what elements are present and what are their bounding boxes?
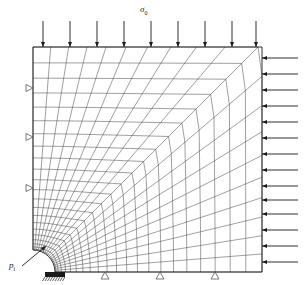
mesh-spoke xyxy=(36,47,68,250)
roller-triangle-up-icon xyxy=(156,272,164,279)
right-load-arrow xyxy=(262,260,298,264)
right-load-arrow xyxy=(262,120,298,124)
right-load-arrow xyxy=(262,72,298,76)
fem-mesh-figure: σ0 pi xyxy=(0,0,306,285)
right-load-arrow xyxy=(262,104,298,108)
mesh-spoke xyxy=(53,155,262,262)
mesh-ring xyxy=(33,134,174,272)
top-load-arrow xyxy=(176,21,180,47)
sigma-subscript: 0 xyxy=(144,10,147,16)
mesh-ring xyxy=(33,180,127,272)
mesh-spoke xyxy=(54,217,262,267)
p-subscript: i xyxy=(14,266,16,272)
roller-triangle-left-icon xyxy=(26,85,33,92)
mesh-spoke xyxy=(40,47,106,251)
right-load-arrow xyxy=(262,212,298,216)
right-load-arrow xyxy=(262,136,298,140)
mesh-ring xyxy=(33,47,262,272)
mesh-ring xyxy=(33,63,246,272)
right-load-arrow xyxy=(262,244,298,248)
mesh-spoke xyxy=(44,47,170,253)
mesh-canvas xyxy=(0,0,306,285)
mesh-ring xyxy=(33,190,117,272)
top-load-arrow xyxy=(254,21,258,47)
right-load-arrow xyxy=(262,198,298,202)
mesh-ring xyxy=(33,208,98,272)
right-load-arrow xyxy=(262,152,298,156)
mesh-spoke xyxy=(35,47,51,250)
mesh-ring xyxy=(33,215,90,272)
mesh-ring xyxy=(33,121,187,272)
top-load-arrow xyxy=(122,21,126,47)
roller-triangle-left-icon xyxy=(26,134,33,141)
load-arrows xyxy=(22,21,298,266)
top-load-arrow xyxy=(203,21,207,47)
right-load-arrow xyxy=(262,168,298,172)
fixed-support-icon xyxy=(43,272,66,281)
plate-outline xyxy=(33,47,262,272)
far-field-stress-label: σ0 xyxy=(140,4,147,16)
mesh-spoke xyxy=(55,254,262,270)
mesh-lines xyxy=(33,47,262,272)
top-load-arrow xyxy=(230,21,234,47)
mesh-ring xyxy=(33,107,201,272)
mesh-spoke xyxy=(55,236,262,269)
roller-triangle-up-icon xyxy=(101,272,109,279)
domain-border xyxy=(33,47,262,272)
top-load-arrow xyxy=(95,21,99,47)
right-load-arrow xyxy=(262,228,298,232)
internal-pressure-label: pi xyxy=(9,260,15,272)
right-load-arrow xyxy=(262,56,298,60)
roller-triangle-left-icon xyxy=(26,185,33,192)
right-load-arrow xyxy=(262,184,298,188)
right-load-arrow xyxy=(262,88,298,92)
top-load-arrow xyxy=(149,21,153,47)
mesh-spoke xyxy=(54,198,262,266)
top-load-arrow xyxy=(68,21,72,47)
roller-triangle-up-icon xyxy=(211,272,219,279)
top-load-arrow xyxy=(41,21,45,47)
mesh-ring xyxy=(33,93,215,272)
